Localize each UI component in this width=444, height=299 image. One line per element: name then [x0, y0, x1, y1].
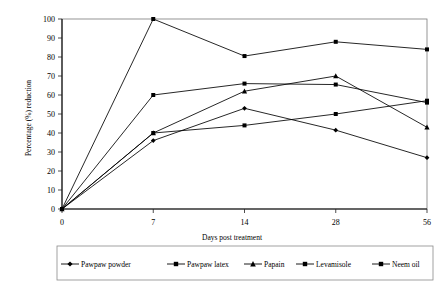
- series-pawpaw-powder: [60, 106, 430, 211]
- legend-label: Neem oil: [392, 260, 420, 269]
- data-point-marker: [243, 54, 247, 58]
- y-tick-label: 50: [47, 110, 55, 119]
- y-axis-title: Percentage (%) reduction: [24, 80, 33, 156]
- data-point-marker: [334, 112, 338, 116]
- x-tick-label: 7: [151, 218, 155, 227]
- data-point-marker: [333, 128, 338, 133]
- data-point-marker: [425, 99, 429, 103]
- x-tick-label: 28: [332, 218, 340, 227]
- legend-label: Levamisole: [316, 260, 352, 269]
- data-point-marker: [243, 82, 247, 86]
- y-tick-label: 30: [47, 148, 55, 157]
- data-point-marker: [151, 93, 155, 97]
- y-tick-label: 90: [47, 34, 55, 43]
- legend-label: Pawpaw powder: [81, 260, 131, 269]
- legend-item-papain[interactable]: Papain: [244, 260, 285, 269]
- series-line: [62, 84, 427, 209]
- legend-item-pawpaw-latex[interactable]: Pawpaw latex: [167, 260, 229, 269]
- legend-marker-square-icon: [379, 262, 383, 266]
- series-pawpaw-latex: [60, 82, 429, 211]
- series-line: [62, 19, 427, 209]
- legend-marker-square-icon: [174, 262, 178, 266]
- data-point-marker: [425, 47, 429, 51]
- legend-item-levamisole[interactable]: Levamisole: [296, 260, 352, 269]
- y-tick-label: 40: [47, 129, 55, 138]
- y-tick-label: 60: [47, 91, 55, 100]
- data-point-marker: [151, 17, 155, 21]
- legend-item-neem-oil[interactable]: Neem oil: [372, 260, 420, 269]
- plot-border: [62, 19, 427, 209]
- y-tick-label: 70: [47, 72, 55, 81]
- legend: Pawpaw powderPawpaw latexPapainLevamisol…: [57, 246, 433, 280]
- data-point-marker: [242, 106, 247, 111]
- y-tick-label: 80: [47, 53, 55, 62]
- x-tick-label: 56: [423, 218, 431, 227]
- y-tick-label: 0: [51, 205, 55, 214]
- chart-container: 0102030405060708090100 07142856 Percenta…: [0, 0, 444, 299]
- data-point-marker: [333, 73, 338, 78]
- data-point-marker: [60, 207, 64, 211]
- x-tick-label: 0: [60, 218, 64, 227]
- data-point-marker: [424, 125, 429, 130]
- legend-label: Pawpaw latex: [187, 260, 229, 269]
- plot-frame: [62, 19, 427, 209]
- y-axis-tick-labels: 0102030405060708090100: [43, 15, 62, 214]
- legend-marker-square-icon: [303, 262, 307, 266]
- data-point-marker: [243, 123, 247, 127]
- series-layer: [59, 17, 429, 211]
- y-tick-label: 20: [47, 167, 55, 176]
- line-chart: 0102030405060708090100 07142856 Percenta…: [0, 0, 444, 299]
- data-point-marker: [425, 155, 430, 160]
- series-neem-oil: [60, 17, 429, 211]
- data-point-marker: [334, 40, 338, 44]
- series-levamisole: [60, 99, 429, 211]
- data-point-marker: [151, 131, 155, 135]
- x-axis-tick-labels: 07142856: [60, 209, 431, 227]
- legend-marker-diamond-icon: [67, 261, 72, 266]
- y-tick-label: 10: [47, 186, 55, 195]
- y-tick-label: 100: [43, 15, 55, 24]
- x-tick-label: 14: [241, 218, 249, 227]
- series-line: [62, 101, 427, 209]
- data-point-marker: [334, 83, 338, 87]
- x-axis-title: Days post treatment: [202, 233, 263, 242]
- legend-label: Papain: [264, 260, 285, 269]
- legend-item-pawpaw-powder[interactable]: Pawpaw powder: [61, 260, 131, 269]
